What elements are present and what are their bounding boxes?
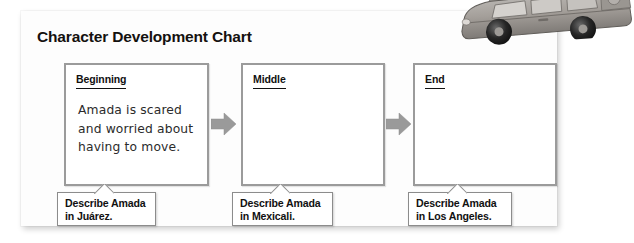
flow-arrow-right-icon [211,112,237,136]
stage-label-middle: Middle [253,73,286,89]
stage-box-beginning[interactable]: Beginning Amada is scared and worried ab… [64,63,209,186]
stage-answer-beginning: Amada is scared and worried about having… [78,101,199,157]
flow-arrow-right-icon [386,112,412,136]
callout-pointer-icon [447,184,467,194]
callout-pointer-icon [94,184,114,194]
callout-text-juarez: Describe Amada in Juárez. [65,197,146,223]
callout-describe-mexicali: Describe Amada in Mexicali. [232,192,333,226]
stage-label-end: End [425,73,445,89]
callout-describe-juarez: Describe Amada in Juárez. [57,192,156,226]
loaded-station-wagon-icon [450,0,634,48]
callout-text-los-angeles: Describe Amada in Los Angeles. [416,197,497,223]
callout-describe-los-angeles: Describe Amada in Los Angeles. [408,192,512,226]
stage-box-end[interactable]: End [413,63,557,186]
callout-text-mexicali: Describe Amada in Mexicali. [240,197,321,223]
stage-box-middle[interactable]: Middle [241,63,385,186]
callout-pointer-icon [270,184,290,194]
page-title: Character Development Chart [37,28,252,46]
stage-label-beginning: Beginning [76,73,126,89]
